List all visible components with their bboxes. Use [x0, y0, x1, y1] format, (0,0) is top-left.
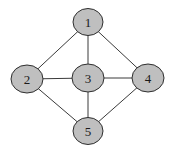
node-3: 3: [72, 64, 104, 92]
node-2: 2: [11, 65, 43, 93]
node-label: 1: [85, 15, 92, 30]
node-label: 2: [24, 72, 31, 87]
node-4: 4: [132, 64, 164, 92]
node-1: 1: [73, 9, 103, 36]
node-label: 5: [85, 124, 92, 139]
node-label: 4: [145, 71, 152, 86]
graph-diagram: 12345: [0, 0, 174, 155]
node-label: 3: [85, 71, 92, 86]
node-5: 5: [73, 118, 103, 145]
nodes-group: 12345: [11, 9, 164, 145]
